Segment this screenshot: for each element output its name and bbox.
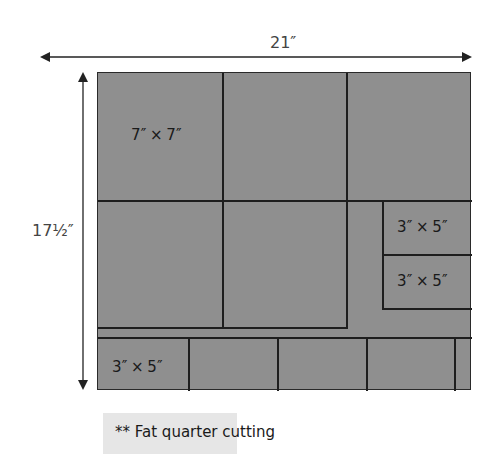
caption-box: ** Fat quarter cutting: [103, 413, 237, 454]
piece-label-rect-bottom-1: 3″ × 5″: [112, 358, 163, 376]
cut-line: [382, 254, 472, 256]
cut-line: [366, 337, 368, 391]
height-dimension-label: 17½″: [32, 221, 74, 240]
piece-label-rect-right-2: 3″ × 5″: [397, 272, 448, 290]
piece-label-rect-right-1: 3″ × 5″: [397, 218, 448, 236]
cut-line: [98, 200, 472, 202]
cut-line: [98, 337, 472, 339]
cut-line: [98, 327, 348, 329]
width-dimension-label: 21″: [270, 33, 296, 52]
cut-line: [382, 308, 472, 310]
cut-line: [188, 337, 190, 391]
piece-label-square: 7″ × 7″: [131, 126, 182, 144]
caption-text: ** Fat quarter cutting: [115, 423, 275, 441]
cut-line: [277, 337, 279, 391]
fabric-board: 7″ × 7″ 3″ × 5″ 3″ × 5″ 3″ × 5″: [97, 72, 471, 390]
cut-line: [454, 337, 456, 391]
